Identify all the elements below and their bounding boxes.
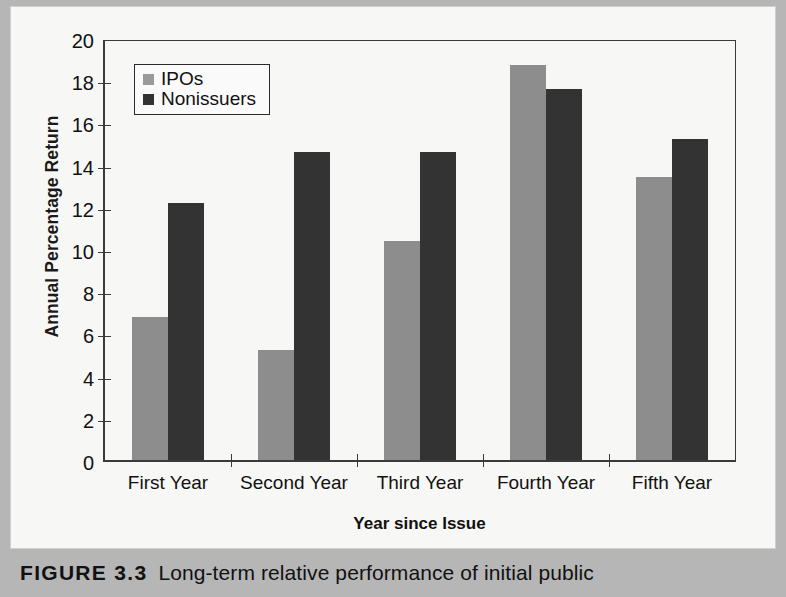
caption-text: Long-term relative performance of initia… xyxy=(158,561,594,585)
y-tick-label: 14 xyxy=(72,156,94,179)
chart-legend: IPOs Nonissuers xyxy=(134,64,270,115)
bar-ipos-4 xyxy=(510,65,546,460)
x-tick-label: Fourth Year xyxy=(497,472,595,494)
y-tick-label: 18 xyxy=(72,72,94,95)
legend-label-nonissuers: Nonissuers xyxy=(161,89,256,109)
figure-caption: FIGURE 3.3 Long-term relative performanc… xyxy=(0,549,786,597)
bar-nonissuers-1 xyxy=(168,203,204,460)
bar-nonissuers-3 xyxy=(420,152,456,460)
x-axis-title: Year since Issue xyxy=(103,514,736,534)
y-tick-label: 0 xyxy=(83,452,94,475)
bar-ipos-2 xyxy=(258,350,294,460)
bar-nonissuers-5 xyxy=(672,139,708,460)
bar-nonissuers-4 xyxy=(546,89,582,460)
caption-inner: FIGURE 3.3 Long-term relative performanc… xyxy=(0,561,594,585)
bar-group: Third Year xyxy=(357,41,483,460)
bar-nonissuers-2 xyxy=(294,152,330,460)
figure-panel: Annual Percentage Return 024681012141618… xyxy=(10,6,776,549)
figure-page: Annual Percentage Return 024681012141618… xyxy=(0,0,786,597)
y-tick-label: 20 xyxy=(72,30,94,53)
legend-swatch-icon-nonissuers xyxy=(143,94,154,105)
y-tick-label: 12 xyxy=(72,198,94,221)
legend-item-ipos: IPOs xyxy=(143,69,256,89)
x-tick-label: First Year xyxy=(128,472,208,494)
bar-ipos-1 xyxy=(132,317,168,460)
legend-label-ipos: IPOs xyxy=(161,69,203,89)
y-axis-title: Annual Percentage Return xyxy=(42,37,63,417)
y-tick-label: 2 xyxy=(83,409,94,432)
x-tick-label: Third Year xyxy=(377,472,464,494)
y-tick-label: 8 xyxy=(83,283,94,306)
y-tick-label: 10 xyxy=(72,241,94,264)
legend-item-nonissuers: Nonissuers xyxy=(143,89,256,109)
bar-group: Fourth Year xyxy=(483,41,609,460)
caption-tag: FIGURE 3.3 xyxy=(20,561,147,585)
y-tick-label: 6 xyxy=(83,325,94,348)
legend-swatch-icon-ipos xyxy=(143,74,154,85)
x-tick-label: Second Year xyxy=(240,472,348,494)
bar-chart: Annual Percentage Return 024681012141618… xyxy=(10,6,776,549)
y-tick-label: 16 xyxy=(72,114,94,137)
x-tick-label: Fifth Year xyxy=(632,472,712,494)
y-tick-label: 4 xyxy=(83,367,94,390)
bar-group: Fifth Year xyxy=(609,41,735,460)
bar-ipos-3 xyxy=(384,241,420,460)
bar-ipos-5 xyxy=(636,177,672,460)
